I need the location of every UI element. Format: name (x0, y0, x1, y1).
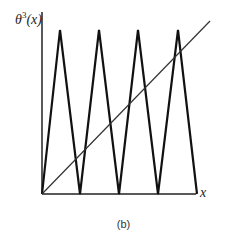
figure: θ3(x) x (b) (0, 0, 247, 237)
identity-line (42, 21, 210, 194)
figure-caption: (b) (0, 218, 247, 230)
y-axis-label: θ3(x) (15, 10, 42, 28)
x-axis-label: x (200, 185, 206, 201)
plot-area (0, 0, 247, 237)
